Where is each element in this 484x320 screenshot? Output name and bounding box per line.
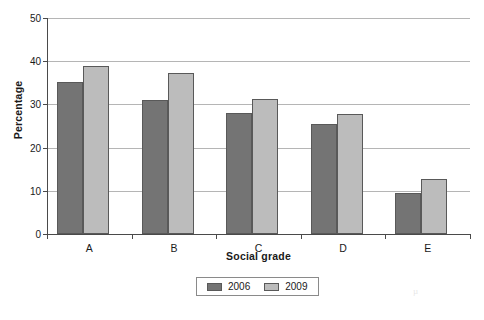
x-tick-mark	[132, 234, 133, 239]
bar-D-2009	[337, 114, 363, 234]
bar-chart: Percentage 01020304050 ABCDE Social grad…	[0, 0, 484, 320]
bar-group	[301, 18, 386, 234]
bar-B-2006	[142, 100, 168, 234]
legend: 20062009	[196, 277, 319, 296]
bar-C-2009	[252, 99, 278, 234]
x-axis-title: Social grade	[47, 250, 470, 262]
bar-group	[47, 18, 132, 234]
y-tick-label: 20	[30, 148, 41, 149]
legend-swatch-2006	[207, 283, 222, 291]
y-tick-label: 10	[30, 191, 41, 192]
x-tick-mark	[47, 234, 48, 239]
bar-group	[216, 18, 301, 234]
bar-group	[385, 18, 470, 234]
x-tick-mark	[301, 234, 302, 239]
legend-entry-2006: 2006	[207, 281, 250, 292]
legend-swatch-2009	[264, 283, 279, 291]
bar-E-2009	[421, 179, 447, 234]
legend-label-2009: 2009	[285, 281, 307, 292]
y-tick-label: 50	[30, 18, 41, 19]
legend-entry-2009: 2009	[264, 281, 307, 292]
bar-A-2006	[57, 82, 83, 234]
bar-group	[132, 18, 217, 234]
bar-B-2009	[168, 73, 194, 234]
bar-E-2006	[395, 193, 421, 234]
bar-C-2006	[226, 113, 252, 234]
y-tick-label: 30	[30, 104, 41, 105]
scan-artifact: µ	[413, 286, 439, 310]
x-axis-line	[47, 234, 470, 235]
y-axis-title: Percentage	[12, 55, 24, 165]
bars-layer	[47, 18, 470, 234]
x-tick-mark	[216, 234, 217, 239]
bar-A-2009	[83, 66, 109, 234]
y-tick-label: 0	[35, 234, 41, 235]
y-tick-label: 40	[30, 61, 41, 62]
plot-area: 01020304050 ABCDE	[47, 18, 470, 234]
legend-label-2006: 2006	[228, 281, 250, 292]
x-tick-mark	[470, 234, 471, 239]
bar-D-2006	[311, 124, 337, 234]
x-tick-mark	[385, 234, 386, 239]
